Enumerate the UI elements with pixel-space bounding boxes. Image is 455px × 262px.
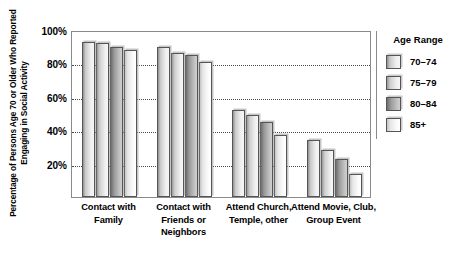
y-axis-tick-label: 40% <box>33 126 67 137</box>
bar <box>82 42 96 197</box>
legend-item-label: 85+ <box>410 119 426 130</box>
y-axis-tick-label: 80% <box>33 59 67 70</box>
legend-item: 85+ <box>386 115 455 134</box>
legend-item-label: 75–79 <box>410 77 436 88</box>
bar-group <box>232 32 288 197</box>
legend-item-label: 80–84 <box>410 98 436 109</box>
plot-inner <box>72 32 370 197</box>
bar <box>124 50 138 197</box>
bar <box>185 55 199 197</box>
x-axis-category-labels: Contact withFamilyContact withFriends or… <box>71 201 371 259</box>
bar <box>96 43 110 197</box>
category-label-line: Attend Movie, Club, <box>282 201 386 214</box>
bar-group <box>82 32 138 197</box>
x-axis-category-label: Attend Movie, Club,Group Event <box>282 201 386 226</box>
bar <box>307 140 321 197</box>
y-axis-tick-label: 20% <box>33 159 67 170</box>
bar <box>171 53 185 197</box>
bar <box>157 47 171 197</box>
plot-area <box>71 31 371 198</box>
legend-swatch <box>386 97 401 111</box>
bar <box>199 62 213 197</box>
bar-group <box>307 32 363 197</box>
bar <box>110 47 124 197</box>
y-axis-title: Percentage of Persons Age 70 or Older Wh… <box>4 4 34 222</box>
y-axis-tick-label: 100% <box>33 26 67 37</box>
bar <box>335 159 349 197</box>
legend-swatch <box>386 118 401 132</box>
bar <box>349 174 363 197</box>
legend-title: Age Range <box>381 34 455 45</box>
bar <box>260 122 274 197</box>
legend-item: 80–84 <box>386 94 455 113</box>
chart-figure: Percentage of Persons Age 70 or Older Wh… <box>0 0 455 262</box>
bar <box>232 110 246 197</box>
legend-item: 70–74 <box>386 52 455 71</box>
category-label-line: Neighbors <box>132 226 236 239</box>
y-axis-tick-label: 60% <box>33 92 67 103</box>
legend-swatch <box>386 55 401 69</box>
bar-group <box>157 32 213 197</box>
legend: Age Range 70–7475–7980–8485+ <box>376 31 455 139</box>
legend-swatch <box>386 76 401 90</box>
legend-item-label: 70–74 <box>410 56 436 67</box>
bar <box>321 150 335 197</box>
bar <box>246 115 260 197</box>
legend-item: 75–79 <box>386 73 455 92</box>
bar <box>274 135 288 197</box>
category-label-line: Group Event <box>282 214 386 227</box>
